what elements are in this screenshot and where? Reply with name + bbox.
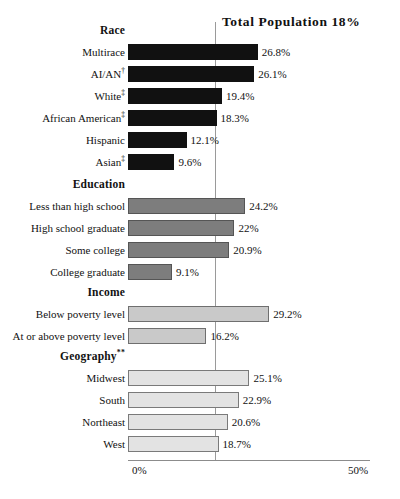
bar [128,242,229,258]
plot-area: RaceMultirace26.8%AI/AN†26.1%White‡19.4%… [0,0,400,499]
bar-row: Midwest25.1% [0,370,400,386]
bar-value-label: 9.6% [178,154,201,170]
bar-row: High school graduate22% [0,220,400,236]
bar-row: West18.7% [0,436,400,452]
x-axis-tick-max: 50% [348,464,368,476]
bar-value-label: 22% [238,220,258,236]
bar-category-label: Asian‡ [96,154,125,170]
group-header-education: Education [73,178,125,190]
bar-value-label: 9.1% [176,264,199,280]
bar-category-label: Less than high school [29,198,125,214]
bar-row: Some college20.9% [0,242,400,258]
bar-category-label: Multirace [82,44,125,60]
bar-category-label: High school graduate [31,220,125,236]
bar [128,154,174,170]
group-header-income: Income [87,286,125,298]
bar-row: At or above poverty level16.2% [0,328,400,344]
bar-category-label: AI/AN† [91,66,125,82]
bar [128,110,217,126]
bar-category-label: White‡ [94,88,125,104]
bar-category-label: West [103,436,125,452]
bar [128,306,269,322]
bar-row: Below poverty level29.2% [0,306,400,322]
bar [128,370,249,386]
bar-row: Less than high school24.2% [0,198,400,214]
bar-value-label: 18.7% [223,436,251,452]
bar-category-label: South [99,392,125,408]
bar [128,198,245,214]
bar-category-label: Midwest [87,370,126,386]
bar-row: White‡19.4% [0,88,400,104]
bar-row: College graduate9.1% [0,264,400,280]
bar-value-label: 20.9% [233,242,261,258]
bar-row: AI/AN†26.1% [0,66,400,82]
bar-value-label: 26.8% [262,44,290,60]
group-header-race: Race [100,24,125,36]
chart-figure: Total Population 18% RaceMultirace26.8%A… [0,0,400,499]
bar [128,44,258,60]
bar [128,328,206,344]
bar-row: Multirace26.8% [0,44,400,60]
bar-row: Asian‡9.6% [0,154,400,170]
bar-row: Northeast20.6% [0,414,400,430]
bar-value-label: 19.4% [226,88,254,104]
x-axis-tick-min: 0% [132,464,147,476]
bar-value-label: 18.3% [221,110,249,126]
bar-row: South22.9% [0,392,400,408]
bar-value-label: 22.9% [243,392,271,408]
bar [128,220,234,236]
x-axis-line [128,460,370,461]
bar [128,392,239,408]
bar-category-label: African American‡ [42,110,125,126]
bar-category-label: College graduate [50,264,125,280]
bar-value-label: 29.2% [273,306,301,322]
bar-value-label: 24.2% [249,198,277,214]
bar-value-label: 26.1% [258,66,286,82]
bar-value-label: 25.1% [253,370,281,386]
bar [128,132,187,148]
bar-value-label: 20.6% [232,414,260,430]
group-header-geography: Geography** [60,350,125,362]
bar-category-label: At or above poverty level [13,328,125,344]
bar-category-label: Northeast [82,414,125,430]
bar-category-label: Some college [65,242,125,258]
bar-category-label: Hispanic [86,132,125,148]
bar-row: African American‡18.3% [0,110,400,126]
bar [128,436,219,452]
bar [128,264,172,280]
bar-row: Hispanic12.1% [0,132,400,148]
bar [128,414,228,430]
bar-value-label: 16.2% [210,328,238,344]
bar-category-label: Below poverty level [36,306,125,322]
bar [128,66,254,82]
bar-value-label: 12.1% [191,132,219,148]
bar [128,88,222,104]
